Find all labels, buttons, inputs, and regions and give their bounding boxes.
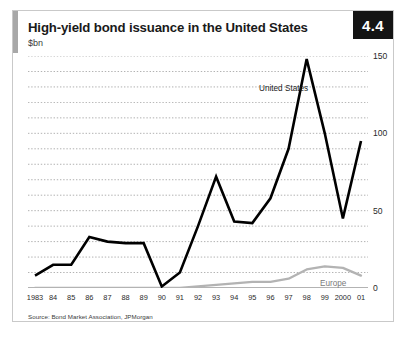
plot-area — [28, 56, 368, 288]
chart-subtitle: $bn — [28, 38, 43, 48]
x-axis-tick-label: 98 — [303, 293, 311, 302]
chart-svg — [28, 56, 368, 288]
x-axis-tick-label: 95 — [248, 293, 256, 302]
series-line-europe — [35, 266, 361, 288]
x-axis-tick-label: 85 — [67, 293, 75, 302]
x-axis-tick-label: 97 — [284, 293, 292, 302]
x-axis-tick-label: 2000 — [335, 293, 351, 302]
gridlines — [28, 56, 368, 273]
x-axis-tick-label: 92 — [194, 293, 202, 302]
y-axis-tick-label: 150 — [373, 51, 387, 61]
figure-number-badge: 4.4 — [353, 11, 393, 39]
accent-bar — [13, 11, 18, 53]
x-axis-tick-label: 01 — [357, 293, 365, 302]
x-axis-tick-label: 94 — [230, 293, 238, 302]
y-axis-tick-label: 100 — [373, 128, 387, 138]
x-axis-tick-label: 87 — [103, 293, 111, 302]
x-axis-tick-label: 99 — [321, 293, 329, 302]
source-note: Source: Bond Market Association, JPMorga… — [28, 313, 153, 320]
x-axis-tick-label: 91 — [176, 293, 184, 302]
x-axis-tick-label: 88 — [121, 293, 129, 302]
x-axis-tick-label: 90 — [158, 293, 166, 302]
x-axis-tick-label: 1983 — [27, 293, 43, 302]
chart-figure: 4.4 High-yield bond issuance in the Unit… — [12, 10, 394, 322]
x-axis-tick-label: 93 — [212, 293, 220, 302]
x-axis-tick-label: 84 — [49, 293, 57, 302]
x-axis-tick-label: 89 — [140, 293, 148, 302]
chart-title: High-yield bond issuance in the United S… — [28, 20, 308, 35]
series-label-united-states: United States — [259, 84, 308, 93]
x-axis-tick-label: 86 — [85, 293, 93, 302]
y-axis-tick-label: 50 — [373, 206, 383, 216]
y-axis-tick-label: 0 — [373, 283, 378, 293]
series-label-europe: Europe — [320, 279, 346, 288]
series-line-united-states — [35, 59, 361, 286]
x-axis-tick-label: 96 — [266, 293, 274, 302]
